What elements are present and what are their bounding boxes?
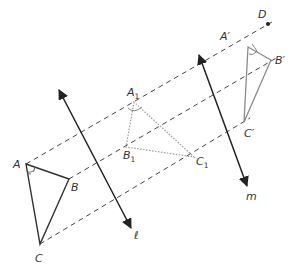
label-line-l: ℓ	[133, 229, 139, 242]
label-d: D	[258, 8, 266, 21]
label-a1: A1	[126, 86, 140, 101]
triangle-abc	[26, 164, 69, 244]
label-b: B	[71, 181, 79, 194]
mirror-line-l	[59, 90, 131, 228]
label-b-prime: B′	[275, 54, 286, 67]
dashed-line-through-a	[26, 22, 272, 164]
label-c1: C1	[196, 155, 209, 170]
label-c: C	[35, 252, 43, 265]
triangle-a-prime-b-prime-c-prime	[244, 47, 271, 122]
label-line-m: m	[246, 190, 257, 203]
point-d	[266, 22, 270, 26]
label-a: A	[12, 158, 21, 171]
diagram-canvas: A B C A1 B1 C1 A′ B′ C′ D ℓ m	[0, 0, 297, 270]
dashed-parallel-lines	[26, 22, 278, 244]
angle-arc-a1	[128, 107, 142, 111]
label-b1: B1	[123, 149, 136, 164]
label-a-prime: A′	[219, 30, 231, 43]
label-c-prime: C′	[244, 127, 255, 140]
